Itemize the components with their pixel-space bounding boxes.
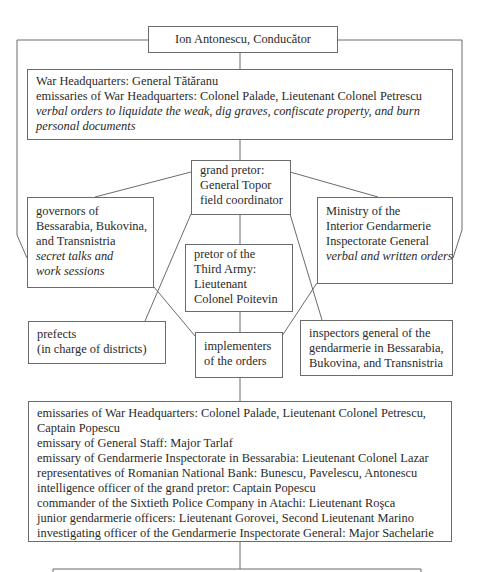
box-pretor-third-army: pretor of the Third Army: Lieutenant Col…	[185, 244, 293, 312]
box-grand-pretor: grand pretor: General Topor field coordi…	[191, 160, 291, 215]
inspectors-line: gendarmerie in Bessarabia,	[309, 341, 444, 356]
personnel-line: commander of the Sixtieth Police Company…	[37, 496, 443, 511]
personnel-line: junior gendarmerie officers: Lieutenant …	[37, 511, 443, 526]
ministry-line: Ministry of the	[326, 204, 444, 219]
pretor-line: Lieutenant	[194, 277, 284, 292]
prefects-line: prefects	[37, 327, 157, 342]
governors-line: and Transnistria	[36, 234, 145, 249]
prefects-line: (in charge of districts)	[37, 342, 157, 357]
ministry-line: Inspectorate General	[326, 234, 444, 249]
connector-right-outer	[453, 40, 462, 258]
inspectors-line: Bukovina, and Transnistria	[309, 356, 444, 371]
governors-note: work sessions	[36, 264, 145, 279]
personnel-line: intelligence officer of the grand pretor…	[37, 481, 443, 496]
box-ministry-interior: Ministry of the Interior Gendarmerie Ins…	[317, 197, 453, 284]
pretor-line: Colonel Poitevin	[194, 292, 284, 307]
box-personnel: emissaries of War Headquarters: Colonel …	[28, 401, 452, 542]
inspectors-line: inspectors general of the	[309, 326, 444, 341]
conducator-label: Ion Antonescu, Conducător	[157, 32, 329, 47]
box-prefects: prefects (in charge of districts)	[28, 321, 166, 364]
personnel-line: Captain Popescu	[37, 421, 443, 436]
implementers-line: implementers	[204, 339, 274, 354]
personnel-line: emissary of Gendarmerie Inspectorate in …	[37, 451, 443, 466]
personnel-line: representatives of Romanian National Ban…	[37, 466, 443, 481]
war-hq-line: emissaries of War Headquarters: Colonel …	[36, 89, 444, 104]
ministry-note: verbal and written orders	[326, 249, 444, 264]
implementers-line: of the orders	[204, 354, 274, 369]
ministry-line: Interior Gendarmerie	[326, 219, 444, 234]
grand-pretor-line: grand pretor:	[200, 163, 282, 178]
box-conducator: Ion Antonescu, Conducător	[148, 26, 338, 53]
box-implementers: implementers of the orders	[195, 332, 283, 378]
grand-pretor-line: field coordinator	[200, 193, 282, 208]
box-inspectors-general: inspectors general of the gendarmerie in…	[300, 320, 453, 376]
personnel-line: emissaries of War Headquarters: Colonel …	[37, 406, 443, 421]
pretor-line: Third Army:	[194, 262, 284, 277]
connector-left-outer	[17, 40, 27, 258]
personnel-line: investigating officer of the Gendarmerie…	[37, 526, 443, 541]
governors-line: Bessarabia, Bukovina,	[36, 219, 145, 234]
war-hq-line: War Headquarters: General Tătăranu	[36, 74, 444, 89]
governors-note: secret talks and	[36, 249, 145, 264]
box-war-headquarters: War Headquarters: General Tătăranu emiss…	[27, 69, 453, 140]
personnel-line: emissary of General Staff: Major Tarlaf	[37, 436, 443, 451]
box-governors: governors of Bessarabia, Bukovina, and T…	[27, 197, 154, 288]
pretor-line: pretor of the	[194, 247, 284, 262]
grand-pretor-line: General Topor	[200, 178, 282, 193]
governors-line: governors of	[36, 204, 145, 219]
war-hq-orders: verbal orders to liquidate the weak, dig…	[36, 104, 444, 134]
